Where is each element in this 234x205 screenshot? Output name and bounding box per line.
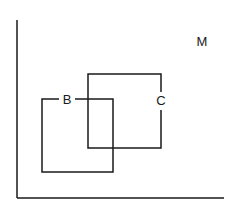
- set-c-rectangle: [88, 74, 161, 148]
- set-c-label: C: [156, 93, 165, 108]
- set-b-label: B: [63, 92, 72, 107]
- diagram-canvas: B C M: [0, 0, 234, 205]
- set-b-rectangle: [42, 99, 113, 172]
- universe-label: M: [197, 34, 208, 49]
- venn-diagram: B C M: [0, 0, 234, 205]
